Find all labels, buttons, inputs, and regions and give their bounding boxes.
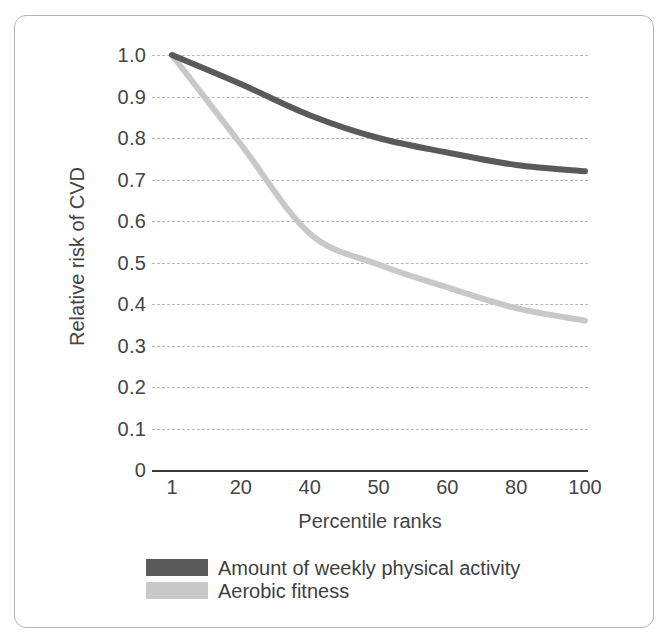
- chart-plot-area: Relative risk of CVD 1.00.90.80.70.60.50…: [0, 0, 664, 643]
- legend-color-swatch: [146, 582, 208, 599]
- gridline: [152, 221, 588, 222]
- legend-label: Amount of weekly physical activity: [218, 558, 520, 578]
- x-axis-line: [152, 470, 588, 472]
- legend-color-swatch: [146, 559, 208, 576]
- gridline: [152, 138, 588, 139]
- x-tick-label: 40: [299, 477, 321, 497]
- gridline: [152, 304, 588, 305]
- gridline: [152, 97, 588, 98]
- x-tick-label: 50: [367, 477, 389, 497]
- gridline: [152, 346, 588, 347]
- y-tick-label: 0.7: [118, 170, 146, 190]
- gridline: [152, 180, 588, 181]
- y-tick-label: 0.3: [118, 336, 146, 356]
- gridline: [152, 263, 588, 264]
- legend-item: Amount of weekly physical activity: [146, 556, 586, 579]
- chart-legend: Amount of weekly physical activityAerobi…: [146, 556, 586, 602]
- y-tick-label: 0.8: [118, 128, 146, 148]
- curve-aerobic-fitness: [172, 55, 585, 321]
- x-tick-label: 20: [230, 477, 252, 497]
- y-tick-label: 0.4: [118, 294, 146, 314]
- x-axis-title: Percentile ranks: [152, 510, 588, 533]
- y-tick-label: 0.1: [118, 419, 146, 439]
- legend-item: Aerobic fitness: [146, 579, 586, 602]
- gridline: [152, 429, 588, 430]
- x-axis-tick-labels: 12040506080100: [0, 477, 664, 505]
- y-tick-label: 0.5: [118, 253, 146, 273]
- gridline: [152, 55, 588, 56]
- y-tick-label: 1.0: [118, 45, 146, 65]
- legend-label: Aerobic fitness: [218, 581, 349, 601]
- x-tick-label: 100: [568, 477, 601, 497]
- curve-weekly-physical-activity: [172, 55, 585, 171]
- x-tick-label: 60: [436, 477, 458, 497]
- y-tick-label: 0.6: [118, 211, 146, 231]
- y-axis-title: Relative risk of CVD: [66, 132, 89, 382]
- y-axis-tick-labels: 1.00.90.80.70.60.50.40.30.20.10: [96, 0, 146, 500]
- y-tick-label: 0.2: [118, 377, 146, 397]
- x-tick-label: 1: [166, 477, 177, 497]
- gridline: [152, 387, 588, 388]
- y-tick-label: 0.9: [118, 87, 146, 107]
- x-tick-label: 80: [505, 477, 527, 497]
